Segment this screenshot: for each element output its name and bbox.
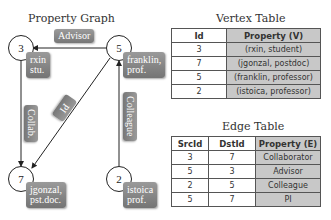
edge-label-collab: Collab. <box>24 105 38 142</box>
node-7-label: jgonzal, pst.doc. <box>26 182 66 208</box>
table-row: 7 (jgonzal, postdoc) <box>172 57 321 71</box>
table-header-row: SrcId DstId Property (E) <box>172 137 321 151</box>
edge-label-colleague: Colleague <box>123 92 137 141</box>
node-3-label: rxin stu. <box>26 52 50 78</box>
node-2-label: istoica prof. <box>123 182 157 208</box>
edge-table: SrcId DstId Property (E) 3 7 Collaborato… <box>171 136 321 207</box>
vertex-table: Id Property (V) 3 (rxin, student) 7 (jgo… <box>171 28 321 99</box>
table-row: 5 (franklin, professor) <box>172 71 321 85</box>
table-row: 2 5 Colleague <box>172 179 321 193</box>
table-row: 3 (rxin, student) <box>172 43 321 57</box>
edge-table-title: Edge Table <box>222 120 284 133</box>
header-srcid: SrcId <box>172 137 209 151</box>
table-row: 3 7 Collaborator <box>172 151 321 165</box>
node-5-label: franklin, prof. <box>123 52 165 78</box>
table-row: 5 3 Advisor <box>172 165 321 179</box>
edge-label-advisor: Advisor <box>54 29 94 43</box>
table-row: 2 (istoica, professor) <box>172 85 321 99</box>
table-header-row: Id Property (V) <box>172 29 321 43</box>
header-property-v: Property (V) <box>227 29 321 43</box>
vertex-table-title: Vertex Table <box>216 12 285 25</box>
header-property-e: Property (E) <box>256 137 321 151</box>
table-row: 5 7 PI <box>172 193 321 207</box>
header-id: Id <box>172 29 227 43</box>
header-dstid: DstId <box>209 137 256 151</box>
